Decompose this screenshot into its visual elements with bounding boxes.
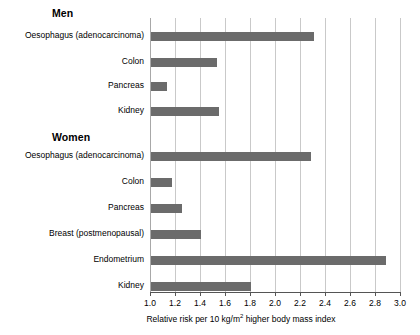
x-tick-label: 2.6 — [344, 298, 356, 308]
plot-area — [150, 18, 400, 292]
x-tick-label: 1.2 — [169, 298, 181, 308]
x-axis-title-suffix: higher body mass index — [243, 314, 335, 324]
chart-figure: Men Women Oesophagus (adenocarcinoma)Col… — [0, 0, 420, 335]
bar-women-oesophagus-adenocarcinoma — [151, 152, 311, 161]
x-tick — [350, 292, 351, 296]
gridline — [350, 18, 351, 292]
category-label-women-kidney: Kidney — [118, 280, 144, 290]
x-tick-label: 1.6 — [219, 298, 231, 308]
category-label-women-breast-postmenopausal: Breast (postmenopausal) — [49, 228, 144, 238]
x-tick-label: 1.8 — [244, 298, 256, 308]
x-tick-label: 2.2 — [294, 298, 306, 308]
category-label-men-oesophagus-adenocarcinoma: Oesophagus (adenocarcinoma) — [25, 30, 144, 40]
x-tick — [375, 292, 376, 296]
category-label-women-oesophagus-adenocarcinoma: Oesophagus (adenocarcinoma) — [25, 150, 144, 160]
bar-women-breast-postmenopausal — [151, 230, 201, 239]
gridline — [325, 18, 326, 292]
group-heading-women: Women — [52, 131, 90, 143]
bar-men-oesophagus-adenocarcinoma — [151, 32, 314, 41]
bar-men-colon — [151, 58, 217, 67]
x-tick — [200, 292, 201, 296]
x-axis-title-prefix: Relative risk per 10 kg/m — [146, 314, 240, 324]
category-label-women-pancreas: Pancreas — [108, 202, 144, 212]
x-tick — [275, 292, 276, 296]
x-tick-label: 1.0 — [144, 298, 156, 308]
x-axis-title: Relative risk per 10 kg/m2 higher body m… — [0, 313, 420, 324]
category-label-women-colon: Colon — [122, 176, 144, 186]
bar-men-kidney — [151, 107, 219, 116]
x-tick — [400, 292, 401, 296]
bar-women-kidney — [151, 282, 251, 291]
group-heading-men: Men — [52, 7, 73, 19]
x-tick-label: 2.4 — [319, 298, 331, 308]
gridline — [400, 18, 401, 292]
bar-women-pancreas — [151, 204, 182, 213]
x-tick-label: 1.4 — [194, 298, 206, 308]
gridline — [375, 18, 376, 292]
category-label-men-kidney: Kidney — [118, 105, 144, 115]
x-tick — [150, 292, 151, 296]
bar-women-endometrium — [151, 256, 386, 265]
x-tick-label: 2.8 — [369, 298, 381, 308]
x-tick — [300, 292, 301, 296]
bar-men-pancreas — [151, 82, 167, 91]
x-tick — [250, 292, 251, 296]
category-label-men-colon: Colon — [122, 56, 144, 66]
bar-women-colon — [151, 178, 172, 187]
x-tick — [225, 292, 226, 296]
x-tick — [325, 292, 326, 296]
x-tick-label: 3.0 — [394, 298, 406, 308]
x-tick — [175, 292, 176, 296]
category-label-women-endometrium: Endometrium — [93, 254, 144, 264]
x-tick-label: 2.0 — [269, 298, 281, 308]
category-label-men-pancreas: Pancreas — [108, 80, 144, 90]
